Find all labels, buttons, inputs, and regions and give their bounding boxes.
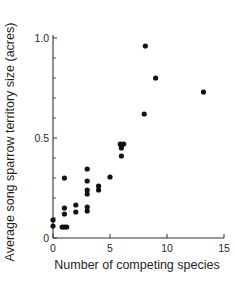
data-point <box>85 204 90 209</box>
data-point <box>201 89 206 94</box>
x-tick-label: 10 <box>161 242 173 254</box>
y-tick-label: 0 <box>43 232 49 244</box>
x-tick-label: 15 <box>218 242 230 254</box>
y-tick-label: 1.0 <box>34 32 49 44</box>
data-point <box>85 166 90 171</box>
data-point <box>96 183 101 188</box>
data-point <box>62 175 67 180</box>
data-point <box>73 202 78 207</box>
data-point <box>62 205 67 210</box>
data-point <box>142 111 147 116</box>
data-point <box>121 141 126 146</box>
axis-labels: Number of competing species Average song… <box>3 23 220 272</box>
y-axis-title: Average song sparrow territory size (acr… <box>3 23 17 262</box>
scatter-chart: 00.51.0051015 Number of competing specie… <box>0 0 235 281</box>
y-tick-label: 0.5 <box>34 132 49 144</box>
data-point <box>85 187 90 192</box>
data-point <box>153 75 158 80</box>
data-point <box>64 224 69 229</box>
data-point <box>50 223 55 228</box>
data-point <box>73 209 78 214</box>
data-point <box>50 217 55 222</box>
data-point <box>107 174 112 179</box>
x-tick-label: 5 <box>107 242 113 254</box>
data-point <box>85 178 90 183</box>
data-point <box>62 211 67 216</box>
data-point <box>143 43 148 48</box>
axes: 00.51.0051015 <box>34 32 230 254</box>
x-axis-title: Number of competing species <box>54 258 219 272</box>
data-point <box>119 153 124 158</box>
data-points <box>50 43 206 229</box>
x-tick-label: 0 <box>50 242 56 254</box>
